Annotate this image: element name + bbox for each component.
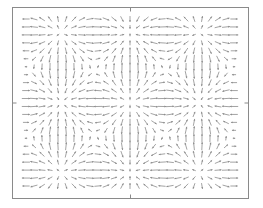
- arrow-head-icon: [65, 77, 67, 79]
- arrow-head-icon: [30, 177, 32, 179]
- arrow-head-icon: [41, 135, 43, 137]
- arrow-head-icon: [105, 64, 107, 66]
- arrow-head-icon: [102, 106, 104, 108]
- arrow-head-icon: [129, 34, 131, 36]
- arrow-head-icon: [23, 153, 25, 155]
- arrow-head-icon: [201, 77, 203, 79]
- arrow-head-icon: [230, 113, 232, 115]
- arrow-head-icon: [129, 40, 131, 42]
- arrow-head-icon: [230, 90, 232, 92]
- arrow-head-icon: [153, 139, 155, 141]
- arrow-head-icon: [22, 177, 24, 179]
- arrow-head-icon: [39, 169, 41, 171]
- arrow-head-icon: [137, 63, 139, 65]
- arrow-head-icon: [129, 79, 131, 81]
- arrow-head-icon: [28, 113, 30, 115]
- arrow-head-icon: [235, 145, 237, 147]
- arrow-head-icon: [81, 135, 83, 137]
- arrow-head-icon: [25, 137, 27, 139]
- arrow-head-icon: [228, 177, 230, 179]
- arrow-head-icon: [236, 50, 238, 52]
- arrow-head-icon: [129, 124, 131, 126]
- arrow-head-icon: [65, 61, 67, 63]
- arrow-head-icon: [49, 134, 51, 136]
- arrow-head-icon: [28, 106, 30, 108]
- arrow-head-icon: [177, 135, 179, 137]
- arrow-head-icon: [217, 135, 219, 137]
- arrow-head-icon: [158, 177, 160, 179]
- arrow-head-icon: [65, 134, 67, 136]
- arrow-head-icon: [30, 169, 32, 171]
- arrow-head-icon: [232, 129, 234, 131]
- arrow-head-icon: [121, 63, 123, 65]
- arrow-head-icon: [94, 89, 96, 91]
- arrow-head-icon: [65, 69, 67, 71]
- arrow-head-icon: [57, 77, 59, 79]
- arrow-head-icon: [81, 68, 83, 70]
- arrow-head-icon: [121, 141, 123, 143]
- arrow-head-icon: [113, 63, 115, 65]
- arrow-head-icon: [236, 26, 238, 28]
- arrow-head-icon: [129, 62, 131, 64]
- arrow-head-icon: [129, 20, 131, 22]
- arrow-head-icon: [92, 177, 94, 179]
- arrow-head-icon: [129, 47, 131, 49]
- arrow-head-icon: [129, 156, 131, 158]
- arrow-head-icon: [65, 142, 67, 144]
- arrow-head-icon: [86, 105, 88, 107]
- arrow-head-icon: [41, 68, 43, 70]
- arrow-head-icon: [236, 185, 238, 187]
- arrow-head-icon: [100, 26, 102, 28]
- arrow-head-icon: [100, 42, 102, 44]
- arrow-head-icon: [22, 185, 24, 187]
- arrow-head-icon: [222, 105, 224, 107]
- arrow-head-icon: [26, 74, 28, 76]
- arrow-head-icon: [92, 26, 94, 28]
- arrow-head-icon: [22, 161, 24, 163]
- arrow-head-icon: [236, 34, 238, 36]
- arrow-head-icon: [158, 42, 160, 44]
- arrow-head-icon: [236, 153, 238, 155]
- arrow-head-icon: [220, 34, 222, 36]
- arrow-head-icon: [108, 169, 110, 171]
- arrow-head-icon: [24, 58, 26, 60]
- arrow-head-icon: [23, 50, 25, 52]
- arrow-head-icon: [57, 84, 59, 86]
- arrow-head-icon: [27, 121, 29, 123]
- arrow-head-icon: [153, 64, 155, 66]
- arrow-head-icon: [102, 97, 104, 99]
- arrow-head-icon: [22, 42, 24, 44]
- arrow-head-icon: [220, 169, 222, 171]
- arrow-head-icon: [24, 145, 26, 147]
- arrow-head-icon: [100, 169, 102, 171]
- arrow-head-icon: [174, 34, 176, 36]
- arrow-head-icon: [158, 169, 160, 171]
- vector-field-arrows: [22, 16, 238, 189]
- arrow-head-icon: [57, 134, 59, 136]
- arrow-head-icon: [22, 18, 24, 20]
- arrow-head-icon: [129, 176, 131, 178]
- arrow-head-icon: [22, 169, 24, 171]
- arrow-head-icon: [129, 115, 131, 117]
- quiver-plot-area: [0, 0, 263, 208]
- arrow-head-icon: [150, 169, 152, 171]
- arrow-head-icon: [115, 34, 117, 36]
- arrow-head-icon: [113, 140, 115, 142]
- arrow-head-icon: [100, 185, 102, 187]
- arrow-head-icon: [73, 135, 75, 137]
- arrow-head-icon: [172, 98, 174, 100]
- arrow-head-icon: [193, 69, 195, 71]
- arrow-head-icon: [129, 183, 131, 185]
- arrow-head-icon: [166, 169, 168, 171]
- arrow-head-icon: [94, 98, 96, 100]
- arrow-head-icon: [158, 34, 160, 36]
- arrow-head-icon: [22, 26, 24, 28]
- arrow-head-icon: [230, 106, 232, 108]
- arrow-head-icon: [185, 135, 187, 137]
- arrow-head-icon: [236, 177, 238, 179]
- arrow-head-icon: [28, 90, 30, 92]
- arrow-head-icon: [49, 69, 51, 71]
- arrow-head-icon: [25, 66, 27, 68]
- arrow-head-icon: [164, 114, 166, 116]
- arrow-head-icon: [236, 18, 238, 20]
